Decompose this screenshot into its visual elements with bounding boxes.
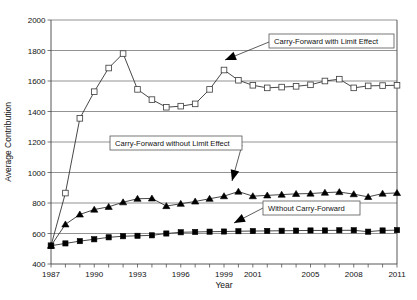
data-point-open-square [135, 87, 141, 93]
data-point-filled-square [178, 230, 183, 235]
x-tick-label: 1987 [42, 270, 60, 279]
data-point-open-square [63, 190, 69, 196]
callout-arrowhead [234, 214, 246, 223]
data-point-filled-square [322, 228, 327, 233]
y-tick-label: 1600 [28, 77, 46, 86]
data-point-filled-triangle [336, 189, 343, 195]
data-point-filled-square [337, 228, 342, 233]
y-tick-label: 800 [32, 199, 46, 208]
data-point-filled-square [250, 228, 255, 233]
data-point-open-square [380, 83, 386, 89]
callout-arrowhead [231, 169, 239, 181]
x-tick-label: 2011 [388, 270, 406, 279]
series-3 [48, 228, 399, 249]
series-2 [47, 188, 400, 248]
data-point-open-square [236, 77, 242, 83]
x-axis-ticks [51, 264, 397, 268]
x-axis-title: Year [215, 280, 232, 290]
data-point-filled-square [265, 228, 270, 233]
data-point-open-square [192, 101, 198, 107]
data-point-filled-square [308, 228, 313, 233]
y-tick-label: 1200 [28, 138, 46, 147]
data-point-filled-triangle [393, 190, 400, 196]
data-point-open-square [91, 89, 97, 95]
data-point-open-square [322, 78, 328, 84]
average-contribution-line-chart: 400600800100012001400160018002000 198719… [0, 0, 417, 300]
data-point-open-square [120, 51, 126, 57]
data-point-filled-square [120, 234, 125, 239]
data-point-filled-square [48, 243, 53, 248]
data-point-filled-triangle [148, 195, 155, 201]
callout-label: Carry-Forward without Limit Effect [115, 139, 231, 148]
data-point-filled-square [380, 228, 385, 233]
data-point-open-square [264, 85, 270, 91]
x-tick-label: 1990 [85, 270, 103, 279]
data-point-open-square [365, 83, 371, 89]
data-point-filled-square [366, 229, 371, 234]
data-point-open-square [178, 103, 184, 109]
data-point-filled-square [106, 235, 111, 240]
callout-without-limit: Carry-Forward without Limit Effect [110, 136, 242, 181]
data-point-filled-triangle [235, 188, 242, 194]
data-point-open-square [164, 104, 170, 110]
y-axis-ticks [48, 20, 52, 264]
data-point-open-square [106, 65, 112, 71]
y-tick-label: 600 [32, 230, 46, 239]
data-point-filled-square [63, 241, 68, 246]
callout-label: Without Carry-Forward [268, 204, 345, 213]
data-point-filled-square [92, 237, 97, 242]
x-axis-tick-labels: 198719901993199619992001200520082011 [42, 270, 406, 279]
data-point-filled-square [351, 228, 356, 233]
data-point-filled-square [236, 229, 241, 234]
data-point-filled-square [279, 228, 284, 233]
y-tick-label: 1000 [28, 169, 46, 178]
data-point-filled-triangle [62, 221, 69, 227]
data-point-open-square [394, 82, 400, 88]
x-tick-label: 2005 [302, 270, 320, 279]
y-tick-label: 400 [32, 260, 46, 269]
y-axis-title: Average Contribution [3, 102, 13, 182]
y-tick-label: 2000 [28, 16, 46, 25]
data-point-open-square [207, 87, 213, 93]
data-point-open-square [308, 82, 314, 88]
x-tick-label: 2008 [345, 270, 363, 279]
data-point-open-square [351, 85, 357, 91]
data-point-open-square [250, 82, 256, 88]
x-tick-label: 1999 [215, 270, 233, 279]
x-tick-label: 1996 [172, 270, 190, 279]
data-point-open-square [221, 67, 227, 73]
callout-without-cf: Without Carry-Forward [234, 201, 360, 223]
data-point-filled-square [164, 231, 169, 236]
y-tick-label: 1800 [28, 47, 46, 56]
data-point-open-square [77, 116, 83, 122]
data-point-open-square [279, 84, 285, 90]
data-point-filled-square [394, 228, 399, 233]
data-point-filled-square [207, 229, 212, 234]
x-tick-label: 1993 [129, 270, 147, 279]
chart-figure: 400600800100012001400160018002000 198719… [0, 0, 417, 300]
data-point-open-square [337, 76, 343, 82]
x-tick-label: 2001 [244, 270, 262, 279]
data-point-filled-square [77, 239, 82, 244]
data-point-filled-square [149, 233, 154, 238]
y-axis-tick-labels: 400600800100012001400160018002000 [28, 16, 46, 269]
callout-with-limit: Carry-Forward with Limit Effect [225, 34, 394, 60]
data-point-open-square [149, 97, 155, 103]
data-point-filled-square [293, 228, 298, 233]
data-point-filled-square [193, 229, 198, 234]
callout-label: Carry-Forward with Limit Effect [274, 37, 379, 46]
data-point-filled-square [135, 233, 140, 238]
callout-arrowhead [225, 52, 237, 60]
data-point-filled-square [221, 229, 226, 234]
y-tick-label: 1400 [28, 108, 46, 117]
data-point-open-square [293, 84, 299, 90]
series-line [51, 192, 397, 246]
